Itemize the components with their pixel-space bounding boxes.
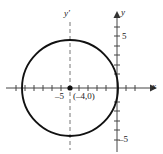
x-axis-label: x — [152, 82, 156, 91]
center-point-marker — [67, 85, 72, 90]
coordinate-plane-svg — [0, 0, 163, 154]
y-prime-axis-label: y′ — [64, 9, 70, 18]
y-axis-arrow-icon — [114, 11, 121, 18]
center-point-label: (–4,0) — [73, 92, 95, 101]
y-axis-tick-label-negative-5: –5 — [119, 135, 128, 144]
math-figure-circle-with-translated-axis: y′ y x 5 –5 –5 (–4,0) — [0, 0, 163, 154]
x-axis-tick-label-negative-5: –5 — [55, 92, 64, 101]
y-axis-tick-label-5: 5 — [122, 32, 127, 41]
y-axis-label: y — [121, 8, 125, 17]
